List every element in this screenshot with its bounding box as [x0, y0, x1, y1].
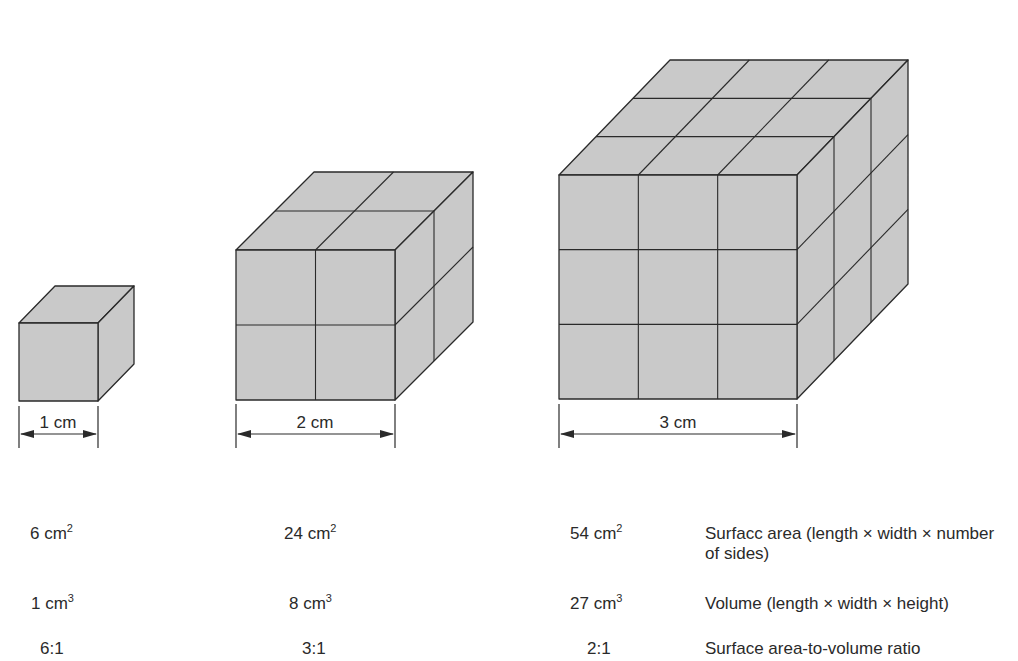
edge-label-2cm: 2 cm [297, 413, 334, 432]
ratio-description: Surface area-to-volume ratio [705, 639, 1005, 659]
ratio-2cm: 3:1 [302, 639, 326, 659]
ratio-1cm: 6:1 [40, 639, 64, 659]
surface-area-3cm: 54 cm2 [570, 524, 622, 544]
surface-area-2cm: 24 cm2 [284, 524, 336, 544]
volume-3cm: 27 cm3 [570, 594, 622, 614]
front-face [19, 323, 98, 401]
cube-1cm [19, 286, 134, 401]
edge-label-3cm: 3 cm [660, 413, 697, 432]
ratio-3cm: 2:1 [587, 639, 611, 659]
volume-1cm: 1 cm3 [31, 594, 74, 614]
edge-label-1cm: 1 cm [40, 413, 77, 432]
cube-3cm [559, 60, 908, 399]
front-face [559, 175, 797, 399]
surface-area-1cm: 6 cm2 [30, 524, 73, 544]
volume-2cm: 8 cm3 [289, 594, 332, 614]
volume-description: Volume (length × width × height) [705, 594, 1018, 614]
cube-figure: 1 cm 2 cm 3 cm [0, 0, 1018, 470]
cube-2cm [236, 172, 473, 400]
surface-area-description: Surfacc area (length × width × number of… [705, 524, 1005, 564]
